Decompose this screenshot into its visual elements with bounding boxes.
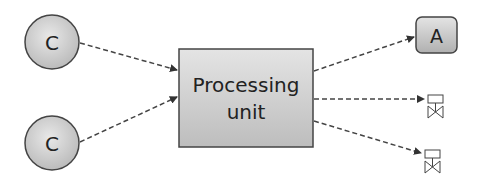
processing-unit-label-line2: unit xyxy=(227,100,266,124)
output-arrow-actuator xyxy=(314,37,414,71)
valve-icon xyxy=(428,95,443,118)
input-arrow-1 xyxy=(80,43,177,70)
processing-unit-label-line1: Processing xyxy=(193,73,300,97)
controller-node-1: C xyxy=(25,15,79,69)
controller-label: C xyxy=(45,132,59,156)
controller-label: C xyxy=(45,31,59,55)
actuator-node: A xyxy=(416,17,457,53)
diagram-canvas: C C Processing unit A xyxy=(0,0,479,189)
processing-unit: Processing unit xyxy=(179,49,313,147)
controller-node-2: C xyxy=(25,116,79,170)
actuator-label: A xyxy=(430,25,443,47)
input-arrow-2 xyxy=(80,97,177,142)
valve-icon xyxy=(425,150,440,173)
output-arrow-valve-2 xyxy=(314,121,421,153)
